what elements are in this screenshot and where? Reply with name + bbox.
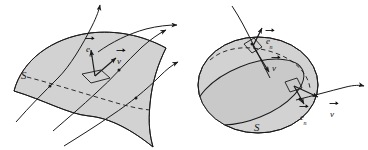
left-open-surface-group — [14, 5, 178, 147]
diagram-svg — [0, 0, 368, 150]
right-v-top-symbol: v — [272, 64, 276, 73]
right-normal-vector-bottom-label: en — [300, 107, 307, 125]
right-velocity-vector-top-label: v — [272, 58, 276, 74]
right-normal-vector-top-label: en — [266, 31, 273, 49]
left-velocity-vector-label: v — [117, 51, 121, 67]
left-surface-label: S — [21, 70, 27, 81]
left-v-symbol: v — [117, 57, 121, 66]
right-v-bottom-symbol: v — [330, 110, 334, 119]
right-surface-label: S — [254, 122, 260, 133]
right-en-top-subscript: n — [270, 44, 273, 50]
streamline-2-pierce-point — [118, 69, 121, 72]
left-en-subscript: n — [90, 52, 93, 58]
right-velocity-vector-bottom-label: v — [330, 104, 334, 120]
figure-canvas: S en v S en — [0, 0, 368, 150]
streamline-1-pierce-point — [49, 85, 52, 88]
left-normal-vector-label: en — [86, 39, 93, 57]
streamline-3-pierce-point — [135, 97, 138, 100]
right-en-bottom-subscript: n — [304, 120, 307, 126]
